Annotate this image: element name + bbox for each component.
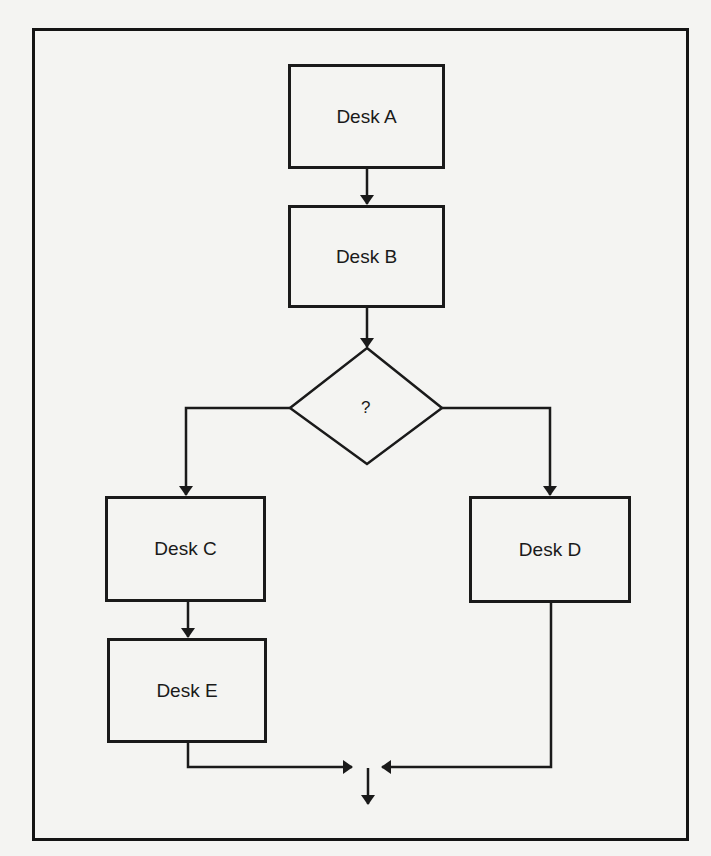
node-label: Desk E xyxy=(156,680,217,702)
edge-e-merge xyxy=(188,742,352,767)
node-label: Desk C xyxy=(154,538,216,560)
edge-decision-d xyxy=(442,408,550,495)
edge-decision-c xyxy=(186,408,290,495)
node-label: Desk A xyxy=(336,106,396,128)
node-desk-d: Desk D xyxy=(469,496,631,603)
node-desk-c: Desk C xyxy=(105,496,266,602)
node-label: Desk D xyxy=(519,539,581,561)
node-desk-b: Desk B xyxy=(288,205,445,308)
decision-label: ? xyxy=(361,398,370,418)
node-desk-a: Desk A xyxy=(288,64,445,169)
edge-d-merge xyxy=(382,602,551,767)
node-desk-e: Desk E xyxy=(107,638,267,743)
node-label: Desk B xyxy=(336,246,397,268)
